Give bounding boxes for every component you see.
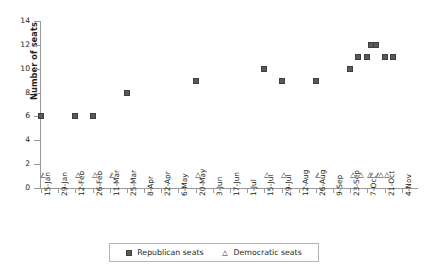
x-axis-tick xyxy=(41,188,42,193)
plot-area xyxy=(40,21,418,188)
data-point-republican xyxy=(364,54,370,60)
x-axis-tick xyxy=(385,188,386,193)
x-axis-tick xyxy=(213,188,214,193)
y-axis-tick-label: 6 xyxy=(0,112,30,120)
legend-label-republican: Republican seats xyxy=(137,248,203,257)
data-point-republican xyxy=(390,54,396,60)
x-axis-tick xyxy=(110,188,111,193)
x-axis-tick xyxy=(316,188,317,193)
data-point-democratic xyxy=(93,172,99,178)
x-axis-tick xyxy=(282,188,283,193)
y-axis-tick-label: 12 xyxy=(0,41,30,49)
x-axis-tick xyxy=(299,188,300,193)
data-point-republican xyxy=(347,66,353,72)
open-triangle-icon xyxy=(222,249,229,256)
data-point-republican xyxy=(382,54,388,60)
filled-square-icon xyxy=(126,250,132,256)
x-axis-tick xyxy=(402,188,403,193)
x-axis-tick xyxy=(230,188,231,193)
legend-entry-democratic: Democratic seats xyxy=(222,248,302,257)
data-point-republican xyxy=(355,54,361,60)
x-axis-tick xyxy=(93,188,94,193)
x-axis-tick xyxy=(144,188,145,193)
y-axis-tick-label: 2 xyxy=(0,160,30,168)
data-point-republican xyxy=(261,66,267,72)
y-axis-title: Number of seats xyxy=(29,1,39,121)
data-point-democratic xyxy=(350,172,356,178)
legend-entry-republican: Republican seats xyxy=(126,248,203,257)
y-axis-tick-label: 4 xyxy=(0,136,30,144)
data-point-democratic xyxy=(358,172,364,178)
data-point-democratic xyxy=(75,172,81,178)
y-axis-tick-label: 0 xyxy=(0,184,30,192)
y-axis-tick xyxy=(34,188,40,189)
x-axis-tick xyxy=(127,188,128,193)
data-point-republican xyxy=(38,113,44,119)
data-point-republican xyxy=(72,113,78,119)
scatter-chart: Number of seats 02468101214 15-Jan29-Jan… xyxy=(0,0,426,266)
data-point-republican xyxy=(90,113,96,119)
y-axis-tick-label: 10 xyxy=(0,65,30,73)
data-point-democratic xyxy=(196,172,202,178)
data-point-republican xyxy=(193,78,199,84)
data-point-democratic xyxy=(282,172,288,178)
x-axis-tick xyxy=(196,188,197,193)
data-point-democratic xyxy=(264,172,270,178)
data-point-democratic xyxy=(110,172,116,178)
data-point-republican xyxy=(124,90,130,96)
data-point-republican xyxy=(313,78,319,84)
data-point-republican xyxy=(373,42,379,48)
y-axis-tick-label: 8 xyxy=(0,89,30,97)
y-axis-tick-label: 14 xyxy=(0,17,30,25)
chart-legend: Republican seats Democratic seats xyxy=(109,243,319,262)
data-point-democratic xyxy=(316,172,322,178)
data-point-republican xyxy=(279,78,285,84)
x-axis-tick xyxy=(333,188,334,193)
data-point-democratic xyxy=(41,172,47,178)
legend-label-democratic: Democratic seats xyxy=(234,248,302,257)
data-point-democratic xyxy=(385,172,391,178)
